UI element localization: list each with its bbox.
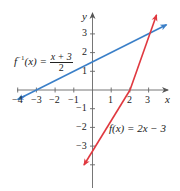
y-tick-label: 3 [82, 27, 87, 38]
y-tick-label: 1 [82, 65, 87, 76]
function-equation-text: f(x) = 2x − 3 [109, 122, 166, 134]
y-axis-label: y [82, 10, 87, 22]
x-tick-label: 3 [145, 94, 150, 105]
x-tick-label: −3 [31, 94, 42, 105]
function-equation-label: f(x) = 2x − 3 [109, 122, 166, 134]
y-tick-label: −3 [76, 140, 87, 151]
fraction-denominator: 2 [50, 63, 73, 73]
graph-canvas [0, 0, 180, 191]
inverse-arg: (x) = [25, 55, 47, 67]
inverse-equation-label: f−1(x) = x + 3 2 [14, 52, 73, 73]
y-tick-label: −2 [76, 121, 87, 132]
x-tick-label: −4 [12, 94, 23, 105]
x-tick-label: 1 [108, 94, 113, 105]
x-axis-label: x [165, 93, 170, 105]
x-tick-label: −2 [49, 94, 60, 105]
x-tick-label: 2 [127, 94, 132, 105]
inverse-superscript: −1 [17, 54, 24, 62]
y-tick-label: 2 [82, 46, 87, 57]
y-tick-label: −1 [76, 102, 87, 113]
inverse-fraction: x + 3 2 [50, 52, 73, 73]
function-line [130, 15, 157, 90]
